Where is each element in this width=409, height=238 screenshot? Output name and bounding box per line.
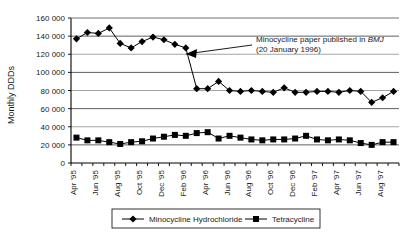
x-tick-label: Apr '96	[201, 169, 210, 195]
data-point-marker	[150, 136, 156, 142]
x-tick-label: Oct '95	[135, 169, 144, 195]
y-tick-label: 120 000	[36, 50, 65, 59]
data-point-marker	[314, 136, 320, 142]
data-point-marker	[73, 135, 79, 141]
x-tick-label: Feb '97	[310, 169, 319, 196]
x-tick-label: Feb '96	[179, 169, 188, 196]
data-point-marker	[270, 136, 276, 142]
x-tick-label: Jun '96	[223, 169, 232, 195]
x-tick-label: Aug '97	[376, 169, 385, 196]
data-point-marker	[253, 216, 259, 222]
x-tick-label: Dec '96	[288, 169, 297, 196]
x-tick-label: Apr '97	[332, 169, 341, 195]
data-point-marker	[237, 135, 243, 141]
data-point-marker	[358, 140, 364, 146]
y-tick-label: 100 000	[36, 68, 65, 77]
data-point-marker	[84, 137, 90, 143]
data-point-marker	[172, 132, 178, 138]
data-point-marker	[216, 136, 222, 142]
x-tick-label: Jun '97	[354, 169, 363, 195]
data-point-marker	[391, 139, 397, 145]
data-point-marker	[380, 139, 386, 145]
data-point-marker	[248, 136, 254, 142]
x-tick-label: Aug '95	[113, 169, 122, 196]
data-point-marker	[117, 141, 123, 147]
data-point-marker	[161, 134, 167, 140]
data-point-marker	[281, 136, 287, 142]
y-tick-label: 60 000	[41, 105, 66, 114]
line-chart: 020 00040 00060 00080 000100 000120 0001…	[0, 0, 409, 238]
annotation-line-1: Minocycline paper published in BMJ	[256, 35, 385, 44]
y-tick-labels: 020 00040 00060 00080 000100 000120 0001…	[36, 14, 65, 168]
y-tick-label: 80 000	[41, 87, 66, 96]
data-point-marker	[227, 133, 233, 139]
annotation-text-emphasis: BMJ	[368, 35, 385, 44]
annotation-line-2: (20 January 1996)	[256, 45, 321, 54]
chart-legend: Minocycline HydrochlorideTetracycline	[112, 209, 320, 228]
x-tick-label: Dec '95	[157, 169, 166, 196]
data-point-marker	[325, 137, 331, 143]
data-point-marker	[183, 133, 189, 139]
data-point-marker	[194, 130, 200, 136]
y-tick-label: 140 000	[36, 32, 65, 41]
data-point-marker	[303, 133, 309, 139]
annotation-text-pre: Minocycline paper published in	[256, 35, 368, 44]
data-point-marker	[205, 129, 211, 135]
x-tick-label: Jun '95	[91, 169, 100, 195]
data-point-marker	[369, 142, 375, 148]
x-tick-label: Oct '96	[266, 169, 275, 195]
data-point-marker	[95, 137, 101, 143]
data-point-marker	[347, 137, 353, 143]
data-point-marker	[292, 136, 298, 142]
y-tick-label: 40 000	[41, 123, 66, 132]
data-point-marker	[139, 138, 145, 144]
y-axis-title: Monthly DDDs	[6, 65, 16, 124]
data-point-marker	[128, 139, 134, 145]
y-tick-label: 0	[61, 159, 66, 168]
y-tick-label: 20 000	[41, 141, 66, 150]
data-point-marker	[336, 136, 342, 142]
data-point-marker	[259, 137, 265, 143]
y-tick-label: 160 000	[36, 14, 65, 23]
data-point-marker	[106, 139, 112, 145]
legend-items: Minocycline HydrochlorideTetracycline	[122, 215, 315, 224]
x-tick-label: Aug '96	[244, 169, 253, 196]
chart-figure: 020 00040 00060 00080 000100 000120 0001…	[0, 0, 409, 238]
x-tick-label: Apr '95	[69, 169, 78, 195]
legend-label: Tetracycline	[272, 215, 315, 224]
legend-label: Minocycline Hydrochloride	[149, 215, 243, 224]
x-tick-labels: Apr '95Jun '95Aug '95Oct '95Dec '95Feb '…	[69, 169, 384, 196]
